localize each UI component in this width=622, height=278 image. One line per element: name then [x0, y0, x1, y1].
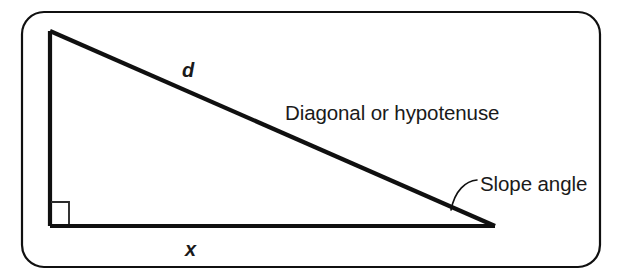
base-variable-label: x	[184, 238, 197, 260]
slope-angle-label: Slope angle	[480, 172, 587, 195]
hypotenuse-variable-label: d	[182, 59, 195, 81]
hypotenuse-description-label: Diagonal or hypotenuse	[285, 101, 499, 124]
right-triangle-diagram: d Diagonal or hypotenuse Slope angle x	[0, 0, 622, 278]
figure-background	[0, 0, 622, 278]
figure-container: d Diagonal or hypotenuse Slope angle x	[0, 0, 622, 278]
